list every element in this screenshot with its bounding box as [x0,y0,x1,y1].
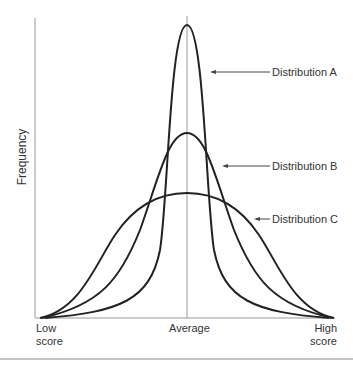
distribution-a-label: Distribution A [272,66,337,79]
distribution-c-label: Distribution C [272,213,338,226]
x-low-label: Low score [36,322,63,348]
distribution-chart [0,0,353,366]
y-axis-label: Frequency [15,127,29,187]
x-high-label: High score [309,322,337,348]
distribution-b-label: Distribution B [272,160,337,173]
x-average-label: Average [169,322,210,335]
